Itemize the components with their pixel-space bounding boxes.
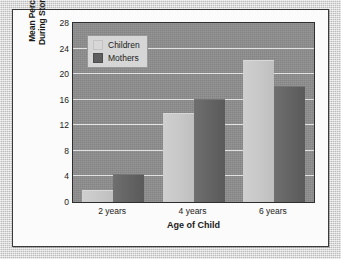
bar-children-2-years [82,190,113,202]
bar-group [163,23,225,202]
bar-mothers-6-years [274,86,305,202]
legend-swatch-icon [93,40,103,50]
chart-figure: Mean Percentage of Utterances During Sto… [12,9,329,247]
x-axis-tick-label: 4 years [179,206,207,216]
figure-mount: Mean Percentage of Utterances During Sto… [0,0,341,259]
y-axis-tick-label: 4 [64,171,69,181]
chart-legend: ChildrenMothers [87,35,148,68]
y-axis-tick-labels: 0481216202428 [47,22,69,203]
y-axis-tick-label: 20 [60,69,69,79]
bar-children-6-years [243,60,274,202]
x-axis-tick-label: 6 years [259,206,287,216]
bar-mothers-2-years [113,174,144,202]
bar-mothers-4-years [194,99,225,202]
x-axis-tick-labels: 2 years4 years6 years [72,206,315,218]
y-axis-tick-label: 0 [64,197,69,207]
y-axis-tick-label: 28 [60,18,69,28]
bar-group [243,23,305,202]
bar-children-4-years [163,113,194,202]
legend-label: Children [108,40,140,50]
x-axis-tick-label: 2 years [98,206,126,216]
y-axis-tick-label: 12 [60,120,69,130]
y-axis-tick-label: 16 [60,95,69,105]
x-axis-title: Age of Child [72,220,315,230]
legend-swatch-icon [93,53,103,63]
y-axis-tick-label: 24 [60,44,69,54]
legend-item-children: Children [93,39,140,50]
legend-label: Mothers [108,53,139,63]
y-axis-title-line1: Mean Percentage of Utterances [27,0,38,42]
plot-area: ChildrenMothers [72,22,315,203]
legend-item-mothers: Mothers [93,52,140,63]
y-axis-title-line2: During Storybook Conversations [37,0,48,45]
y-axis-tick-label: 8 [64,146,69,156]
